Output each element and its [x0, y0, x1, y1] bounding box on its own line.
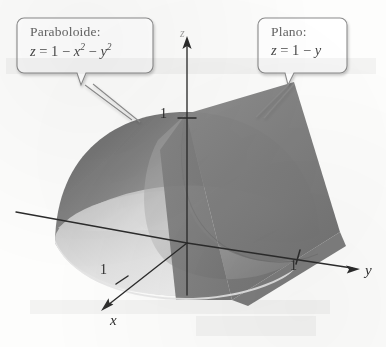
- callout-paraboloid-bubble[interactable]: [17, 18, 153, 85]
- callout-plane-bubble[interactable]: [258, 18, 347, 85]
- callout-paraboloid-leader-1: [85, 85, 132, 120]
- callout-paraboloid-leader-2: [93, 84, 140, 122]
- paraboloid-plane-figure: [0, 0, 386, 347]
- axis-y-arrowhead: [346, 266, 360, 274]
